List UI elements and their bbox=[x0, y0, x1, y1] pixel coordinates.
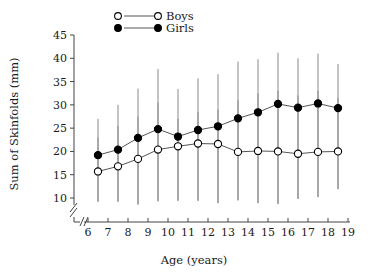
x-axis-tick-label: 8 bbox=[125, 226, 132, 239]
data-point-boys bbox=[194, 140, 201, 147]
y-axis-tick-label: 25 bbox=[53, 122, 67, 135]
data-point-boys bbox=[274, 148, 281, 155]
y-axis-tick-label: 40 bbox=[53, 52, 67, 65]
data-point-girls bbox=[134, 134, 141, 141]
legend-marker-boys bbox=[115, 13, 122, 20]
legend-label-girls: Girls bbox=[166, 21, 194, 35]
data-point-boys bbox=[94, 168, 101, 175]
y-axis-tick-label: 30 bbox=[53, 99, 67, 112]
data-point-boys bbox=[314, 148, 321, 155]
x-axis-title: Age (years) bbox=[160, 253, 228, 267]
x-axis-tick-label: 9 bbox=[145, 226, 152, 239]
data-point-girls bbox=[234, 115, 241, 122]
data-point-girls bbox=[94, 152, 101, 159]
x-axis-tick-label: 12 bbox=[201, 226, 215, 239]
data-point-boys bbox=[214, 140, 221, 147]
legend-marker-girls bbox=[155, 25, 162, 32]
x-axis-tick-label: 14 bbox=[241, 226, 255, 239]
chart-figure: BoysGirls 1015202530354045 6789101112131… bbox=[0, 0, 389, 273]
data-point-boys bbox=[134, 155, 141, 162]
legend-marker-girls bbox=[115, 25, 122, 32]
data-point-boys bbox=[294, 150, 301, 157]
data-point-boys bbox=[234, 148, 241, 155]
x-axis-tick-label: 11 bbox=[181, 226, 195, 239]
data-point-boys bbox=[334, 148, 341, 155]
data-point-boys bbox=[254, 147, 261, 154]
x-axis-tick-label: 7 bbox=[105, 226, 112, 239]
legend-marker-boys bbox=[155, 13, 162, 20]
x-axis: 678910111213141516171819 bbox=[74, 217, 355, 239]
data-point-girls bbox=[194, 126, 201, 133]
data-point-girls bbox=[214, 123, 221, 130]
chart-legend: BoysGirls bbox=[115, 9, 194, 35]
x-axis-tick-label: 13 bbox=[221, 226, 235, 239]
data-point-girls bbox=[314, 100, 321, 107]
skinfolds-line-chart: BoysGirls 1015202530354045 6789101112131… bbox=[0, 0, 389, 273]
data-point-boys bbox=[114, 163, 121, 170]
y-axis-tick-label: 15 bbox=[53, 169, 67, 182]
data-point-girls bbox=[154, 125, 161, 132]
y-axis-tick-label: 10 bbox=[53, 192, 67, 205]
y-axis-tick-label: 45 bbox=[53, 29, 67, 42]
y-axis-title: Sum of Skinfolds (mm) bbox=[7, 57, 21, 190]
y-axis: 1015202530354045 bbox=[53, 29, 77, 222]
data-point-girls bbox=[174, 133, 181, 140]
x-axis-tick-label: 17 bbox=[301, 226, 315, 239]
x-axis-tick-label: 18 bbox=[321, 226, 335, 239]
data-point-girls bbox=[334, 105, 341, 112]
x-axis-tick-label: 16 bbox=[281, 226, 295, 239]
x-axis-tick-label: 10 bbox=[161, 226, 175, 239]
y-axis-tick-label: 35 bbox=[53, 76, 67, 89]
data-point-girls bbox=[114, 146, 121, 153]
data-point-girls bbox=[294, 104, 301, 111]
y-axis-tick-label: 20 bbox=[53, 145, 67, 158]
data-point-boys bbox=[154, 146, 161, 153]
data-point-girls bbox=[274, 100, 281, 107]
data-point-girls bbox=[254, 109, 261, 116]
x-axis-tick-label: 15 bbox=[261, 226, 275, 239]
data-point-boys bbox=[174, 143, 181, 150]
x-axis-tick-label: 6 bbox=[85, 226, 92, 239]
x-axis-break-mark bbox=[80, 217, 84, 226]
y-axis-break-mark bbox=[70, 208, 77, 217]
x-axis-tick-label: 19 bbox=[341, 226, 355, 239]
